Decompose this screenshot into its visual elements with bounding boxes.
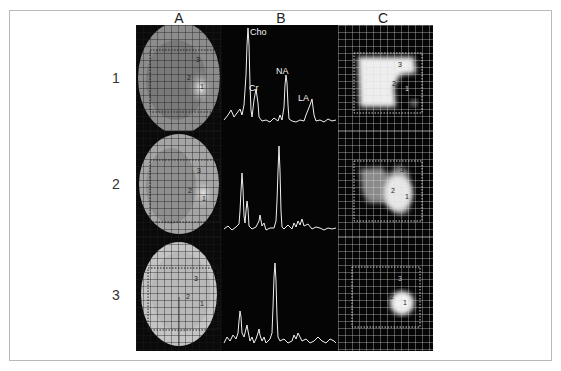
column-label-a: A [164, 10, 194, 26]
roi-label-1: 1 [403, 299, 407, 306]
roi-label-3: 3 [398, 275, 402, 282]
mri-image-row3: 3 2 1 [136, 237, 222, 351]
roi-label-3: 3 [194, 275, 198, 282]
roi-label-3: 3 [196, 56, 200, 63]
figure-panel-grid: 3 2 1 Cho Cr NA LA [136, 25, 433, 351]
peak-label-cr: Cr [249, 83, 259, 93]
row-label-3: 3 [112, 287, 120, 303]
roi-label-1: 1 [200, 300, 204, 307]
roi-label-1: 1 [405, 193, 409, 200]
roi-label-3: 3 [400, 166, 404, 173]
spectrum-row3 [222, 237, 338, 351]
peak-label-cho: Cho [250, 27, 267, 37]
roi-label-2: 2 [392, 80, 396, 87]
roi-label-2: 2 [390, 293, 394, 300]
roi-label-1: 1 [405, 85, 409, 92]
column-label-b: B [266, 10, 296, 26]
metabolite-map-row2: 3 2 1 [338, 131, 433, 237]
peak-label-la: LA [298, 93, 309, 103]
mri-image-row1: 3 2 1 [136, 25, 222, 131]
row-label-1: 1 [112, 70, 120, 86]
row-label-2: 2 [112, 176, 120, 192]
mri-image-row2: 3 2 1 [136, 131, 222, 237]
roi-label-2: 2 [391, 187, 395, 194]
column-label-c: C [368, 10, 398, 26]
spectrum-row1: Cho Cr NA LA [222, 25, 338, 131]
metabolite-map-row1: 3 2 1 [338, 25, 433, 131]
roi-label-3: 3 [398, 61, 402, 68]
roi-label-1: 1 [202, 195, 206, 202]
peak-label-na: NA [276, 66, 289, 76]
roi-label-3: 3 [197, 167, 201, 174]
roi-label-2: 2 [188, 187, 192, 194]
spectrum-row2 [222, 131, 338, 237]
roi-label-2: 2 [187, 74, 191, 81]
metabolite-map-row3: 3 2 1 [338, 237, 433, 351]
roi-label-1: 1 [200, 83, 204, 90]
roi-label-2: 2 [186, 293, 190, 300]
